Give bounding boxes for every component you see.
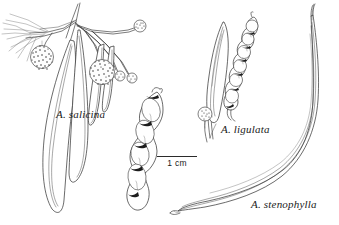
salicina-pod xyxy=(127,88,163,211)
ligulata-flower-head xyxy=(198,107,212,128)
salicina-peduncles xyxy=(42,23,137,76)
species-label-salicina: A. salicina xyxy=(56,108,105,120)
salicina-branch-node xyxy=(26,3,80,42)
scale-bar: 1 cm xyxy=(157,156,197,168)
ligulata-pod xyxy=(224,12,258,121)
scale-bar-line xyxy=(157,156,197,157)
salicina-flower-head-1 xyxy=(31,41,54,70)
botanical-plate: A. salicina A. ligulata A. stenophylla 1… xyxy=(0,0,339,225)
illustration-canvas xyxy=(0,0,339,225)
species-label-ligulata: A. ligulata xyxy=(221,123,270,135)
species-label-stenophylla: A. stenophylla xyxy=(251,198,317,210)
salicina-flower-head-2 xyxy=(89,60,114,85)
scale-bar-caption: 1 cm xyxy=(157,158,197,168)
